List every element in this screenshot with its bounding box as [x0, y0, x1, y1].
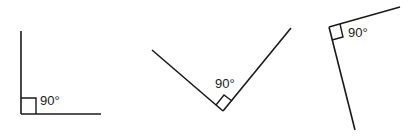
right-angle-marker [21, 98, 36, 114]
right-angle-figure-3: 90° [329, 7, 400, 130]
lower-arm [329, 27, 355, 130]
right-angle-figure-1: 90° [21, 31, 101, 114]
right-angles-diagram: 90° 90° 90° [0, 0, 416, 140]
angle-label: 90° [215, 76, 235, 91]
left-arm [152, 50, 223, 111]
angle-label: 90° [40, 93, 60, 108]
upper-arm [329, 7, 400, 27]
right-angle-figure-2: 90° [152, 28, 291, 111]
right-arm [223, 28, 291, 111]
angle-label: 90° [348, 25, 368, 40]
